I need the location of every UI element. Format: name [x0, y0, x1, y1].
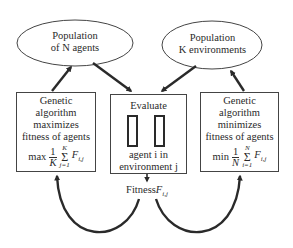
env-population-label: Population K environments [160, 32, 265, 56]
formula-fraction: 1 K [49, 147, 56, 168]
ga-agents-line4: fitness of agents [17, 131, 95, 143]
agents-population-label: Population of N agents [20, 30, 130, 54]
ga-agents-line3: maximizes [17, 119, 95, 131]
evaluate-line2: environment j [111, 161, 186, 173]
env-population-line2: K environments [160, 44, 265, 56]
ga-agents-formula: max 1 K K Σ j=1 Fi,j [17, 145, 95, 169]
evaluate-subtext: agent i in environment j [111, 149, 186, 173]
ga-envs-formula: min 1 N N Σ i=1 Fi,j [201, 145, 278, 169]
arrow-ga-to-envs [231, 71, 244, 91]
summation: K Σ j=1 [60, 145, 70, 169]
agents-population-line2: of N agents [20, 42, 130, 54]
ga-agents-line2: algorithm [17, 107, 95, 119]
evaluate-line1: agent i in [111, 149, 186, 161]
sum-lower: i=1 [242, 162, 252, 169]
ga-agents-box: Genetic algorithm maximizes fitness of a… [16, 92, 96, 172]
formula-fraction: 1 N [232, 147, 239, 168]
ga-agents-text: Genetic algorithm maximizes fitness of a… [17, 95, 95, 143]
arrow-ga-to-agents [52, 67, 71, 91]
arrow-agents-to-evaluate [93, 63, 131, 91]
ga-envs-line4: fitness of agents [201, 131, 278, 143]
fraction-denominator: N [232, 158, 239, 168]
fitness-subscript: i,j [162, 190, 168, 198]
agents-population-line1: Population [20, 30, 130, 42]
sum-lower: j=1 [60, 162, 70, 169]
ga-envs-line3: minimizes [201, 119, 278, 131]
evaluate-title: Evaluate [111, 100, 186, 112]
fraction-numerator: 1 [49, 147, 56, 158]
fitness-label: FitnessFi,j [112, 184, 182, 200]
ga-envs-line2: algorithm [201, 107, 278, 119]
formula-subscript: i,j [261, 155, 267, 163]
fitness-text: Fitness [126, 184, 156, 195]
ga-envs-text: Genetic algorithm minimizes fitness of a… [201, 95, 278, 143]
fraction-numerator: 1 [232, 147, 239, 158]
arrow-envs-to-evaluate [162, 66, 196, 91]
formula-op: min [213, 151, 229, 163]
formula-subscript: i,j [78, 155, 84, 163]
ga-agents-line1: Genetic [17, 95, 95, 107]
env-population-line1: Population [160, 32, 265, 44]
fraction-denominator: K [49, 158, 56, 168]
evaluate-box: Evaluate agent i in environment j [110, 94, 187, 174]
ga-envs-line1: Genetic [201, 95, 278, 107]
summation: N Σ i=1 [242, 145, 252, 169]
formula-op: max [28, 151, 46, 163]
ga-envs-box: Genetic algorithm minimizes fitness of a… [200, 92, 279, 172]
